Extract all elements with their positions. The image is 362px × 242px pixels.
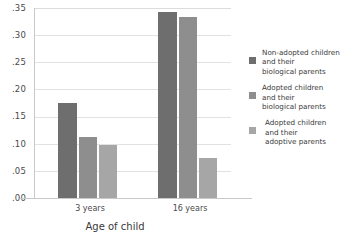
- legend-item-label: Adopted children and their biological pa…: [262, 83, 362, 111]
- x-tick-label-3-years: 3 years: [60, 205, 120, 213]
- legend-item-label: Adopted children and their adoptive pare…: [265, 118, 362, 146]
- legend-item-nonadopted-biological: Non-adopted children and their biologica…: [249, 48, 362, 76]
- y-tick-label: .25: [2, 58, 26, 67]
- bar-3years-nonadopted-biological: [58, 103, 77, 198]
- y-tick-label: .30: [2, 31, 26, 40]
- x-axis-title: Age of child: [0, 222, 230, 232]
- legend-item-label: Non-adopted children and their biologica…: [262, 48, 362, 76]
- legend-swatch-icon: [249, 92, 256, 99]
- legend-item-adopted-adoptive: Adopted children and their adoptive pare…: [249, 118, 362, 146]
- bar-16years-adopted-biological: [179, 17, 197, 198]
- bar-16years-nonadopted-biological: [158, 12, 177, 198]
- y-tick-label: .10: [2, 140, 26, 149]
- legend: Non-adopted children and their biologica…: [249, 48, 362, 154]
- y-tick-label: .20: [2, 85, 26, 94]
- x-axis-line: [20, 198, 252, 200]
- y-tick-label: .35: [2, 4, 26, 13]
- legend-swatch-icon: [249, 127, 256, 134]
- legend-swatch-icon: [249, 57, 256, 64]
- bar-3years-adopted-adoptive: [99, 145, 117, 198]
- y-tick-label: .15: [2, 112, 26, 121]
- legend-item-adopted-biological: Adopted children and their biological pa…: [249, 83, 362, 111]
- bar-16years-adopted-adoptive: [199, 158, 217, 198]
- bars-layer: [34, 8, 230, 198]
- bar-chart: .35 .30 .25 .20 .15 .10 .05 .00 3 years …: [0, 0, 362, 242]
- x-tick-label-16-years: 16 years: [160, 205, 220, 213]
- y-tick-label: .05: [2, 167, 26, 176]
- bar-3years-adopted-biological: [79, 137, 97, 198]
